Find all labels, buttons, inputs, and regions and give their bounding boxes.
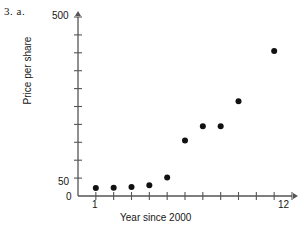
data-point	[218, 123, 224, 129]
data-point	[146, 182, 152, 188]
data-point	[93, 185, 99, 191]
data-point	[111, 185, 117, 191]
data-point	[200, 123, 206, 129]
data-point	[182, 138, 188, 144]
data-point	[129, 184, 135, 190]
data-point	[236, 98, 242, 104]
axes-group	[74, 11, 298, 200]
figure: 3. a. Price per share Year since 2000 50…	[0, 0, 305, 232]
x-axis-arrow	[293, 193, 298, 199]
scatter-plot-canvas	[0, 0, 305, 232]
data-point	[271, 48, 277, 54]
y-axis-arrow	[75, 11, 81, 16]
data-points-group	[93, 48, 277, 191]
data-point	[164, 174, 170, 180]
